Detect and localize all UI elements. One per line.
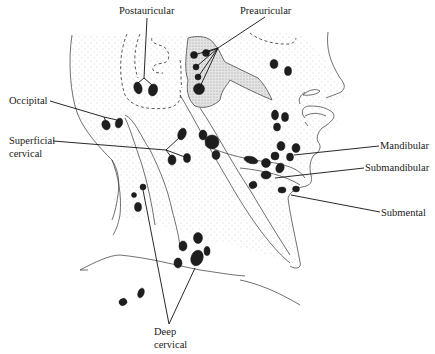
node-mandibular: [271, 152, 279, 160]
node-submandibular: [262, 159, 271, 168]
node-facial: [285, 67, 292, 76]
node-submental: [293, 186, 300, 192]
label-superficial-cervical-1: Superficial: [9, 135, 55, 147]
label-preauricular: Preauricular: [240, 5, 291, 17]
node-deep-cervical: [135, 203, 142, 212]
label-superficial-cervical-2: cervical: [9, 148, 42, 160]
node-mandibular: [287, 153, 294, 161]
node-deep-cervical: [204, 247, 210, 256]
head-neck-lymph-node-diagram: [0, 0, 435, 354]
node-submandibular: [261, 171, 271, 179]
node-submental: [278, 187, 286, 193]
node-superficial-cervical: [184, 154, 191, 163]
node-supraclavicular: [118, 297, 128, 307]
node-supraclavicular: [136, 287, 145, 298]
node-cervical: [212, 151, 220, 160]
label-submental: Submental: [381, 207, 426, 219]
node-facial: [274, 123, 281, 131]
label-deep-cervical-1: Deep: [154, 326, 176, 338]
node-cervical: [205, 135, 219, 149]
node-deep-cervical: [189, 248, 206, 267]
node-superficial-cervical: [168, 155, 176, 165]
node-facial: [272, 110, 279, 120]
node-facial: [270, 60, 278, 69]
node-mandibular: [277, 142, 285, 151]
node-deep-cervical: [140, 184, 146, 190]
label-deep-cervical-2: cervical: [154, 339, 187, 351]
node-deep-cervical: [179, 241, 187, 251]
node-deep-cervical: [194, 233, 203, 244]
label-postauricular: Postauricular: [119, 5, 174, 17]
node-deep-cervical: [132, 193, 137, 198]
node-facial: [282, 113, 289, 122]
node-mandibular: [292, 144, 300, 153]
label-submandibular: Submandibular: [365, 162, 429, 174]
label-mandibular: Mandibular: [380, 140, 429, 152]
label-occipital: Occipital: [9, 95, 47, 107]
node-deep-cervical: [174, 258, 182, 268]
